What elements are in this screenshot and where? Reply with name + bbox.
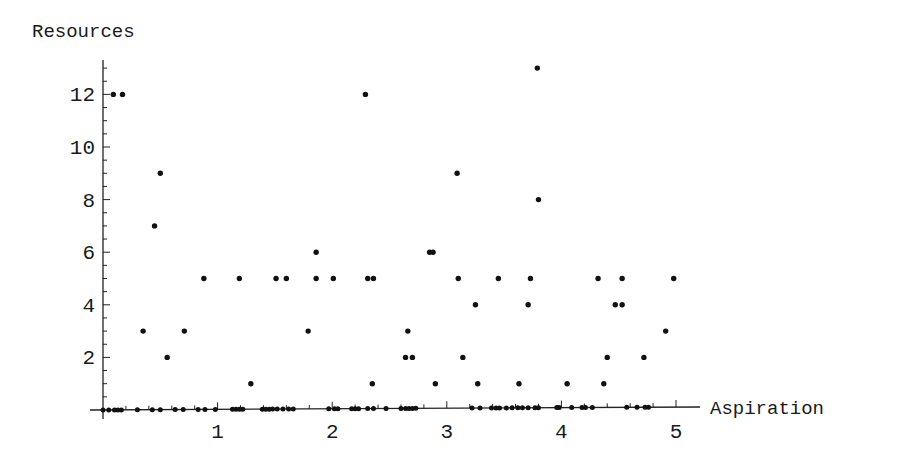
data-point bbox=[182, 328, 187, 333]
data-point-zero bbox=[286, 407, 291, 412]
data-point-zero bbox=[536, 405, 541, 410]
y-tick-label: 2 bbox=[82, 347, 95, 370]
data-point-zero bbox=[213, 407, 218, 412]
data-point-zero bbox=[526, 405, 531, 410]
data-point-zero bbox=[590, 405, 595, 410]
x-axis-label: Aspiration bbox=[710, 398, 824, 420]
data-point bbox=[433, 381, 438, 386]
data-point bbox=[516, 381, 521, 386]
data-point-zero bbox=[280, 407, 285, 412]
data-point-zero bbox=[119, 407, 124, 412]
data-point-zero bbox=[646, 405, 651, 410]
data-points bbox=[101, 65, 677, 412]
data-point-zero bbox=[291, 407, 296, 412]
data-point-zero bbox=[520, 405, 525, 410]
data-point bbox=[605, 355, 610, 360]
data-point-zero bbox=[275, 407, 280, 412]
data-point-zero bbox=[504, 405, 509, 410]
data-point bbox=[536, 197, 541, 202]
y-axis-label: Resources bbox=[32, 21, 135, 43]
data-point bbox=[201, 276, 206, 281]
x-tick-label: 5 bbox=[670, 421, 683, 444]
data-point bbox=[111, 92, 116, 97]
data-point-zero bbox=[101, 408, 106, 413]
data-point bbox=[663, 328, 668, 333]
data-point-zero bbox=[398, 406, 403, 411]
data-point bbox=[460, 355, 465, 360]
data-point-zero bbox=[557, 405, 562, 410]
data-point-zero bbox=[413, 406, 418, 411]
data-point-zero bbox=[510, 405, 515, 410]
x-tick-label: 3 bbox=[440, 421, 453, 444]
data-point bbox=[158, 171, 163, 176]
data-point-zero bbox=[135, 407, 140, 412]
data-point-zero bbox=[356, 406, 361, 411]
data-point bbox=[564, 381, 569, 386]
x-axis-title: Aspiration bbox=[710, 398, 824, 420]
data-point-zero bbox=[624, 405, 629, 410]
tick-marks bbox=[103, 68, 676, 410]
data-point bbox=[313, 276, 318, 281]
data-point bbox=[371, 276, 376, 281]
data-point bbox=[284, 276, 289, 281]
data-point bbox=[528, 276, 533, 281]
data-point-zero bbox=[371, 406, 376, 411]
y-tick-label: 4 bbox=[82, 295, 95, 318]
data-point-zero bbox=[489, 405, 494, 410]
data-point-zero bbox=[106, 407, 111, 412]
data-point bbox=[237, 276, 242, 281]
data-point-zero bbox=[635, 405, 640, 410]
data-point bbox=[405, 328, 410, 333]
data-point-zero bbox=[326, 406, 331, 411]
data-point bbox=[475, 381, 480, 386]
data-point-zero bbox=[202, 407, 207, 412]
data-point bbox=[403, 355, 408, 360]
data-point bbox=[313, 250, 318, 255]
data-point-zero bbox=[515, 405, 520, 410]
data-point bbox=[601, 381, 606, 386]
data-point bbox=[454, 171, 459, 176]
data-point-zero bbox=[196, 407, 201, 412]
data-point-zero bbox=[497, 405, 502, 410]
data-point bbox=[430, 250, 435, 255]
axes bbox=[90, 60, 700, 419]
x-tick-label: 2 bbox=[326, 421, 339, 444]
data-point bbox=[671, 276, 676, 281]
tick-labels: 1234524681012 bbox=[70, 84, 683, 444]
data-point-zero bbox=[365, 406, 370, 411]
data-point bbox=[120, 92, 125, 97]
data-point bbox=[363, 92, 368, 97]
data-point-zero bbox=[478, 406, 483, 411]
data-point bbox=[365, 276, 370, 281]
scatter-chart: Resources Aspiration 1234524681012 bbox=[0, 0, 911, 456]
data-point bbox=[496, 276, 501, 281]
data-point bbox=[410, 355, 415, 360]
data-point-zero bbox=[270, 407, 275, 412]
data-point-zero bbox=[583, 405, 588, 410]
data-point-zero bbox=[569, 405, 574, 410]
y-tick-label: 6 bbox=[82, 242, 95, 265]
data-point bbox=[273, 276, 278, 281]
data-point bbox=[525, 302, 530, 307]
data-point-zero bbox=[173, 407, 178, 412]
data-point-zero bbox=[181, 407, 186, 412]
data-point bbox=[619, 302, 624, 307]
data-point bbox=[248, 381, 253, 386]
data-point bbox=[305, 328, 310, 333]
data-point bbox=[473, 302, 478, 307]
data-point bbox=[613, 302, 618, 307]
data-point bbox=[535, 65, 540, 70]
data-point-zero bbox=[335, 406, 340, 411]
y-tick-label: 8 bbox=[82, 190, 95, 213]
data-point bbox=[595, 276, 600, 281]
data-point bbox=[456, 276, 461, 281]
y-tick-label: 12 bbox=[70, 84, 95, 107]
data-point bbox=[140, 328, 145, 333]
data-point bbox=[370, 381, 375, 386]
data-point-zero bbox=[150, 407, 155, 412]
y-tick-label: 10 bbox=[70, 137, 95, 160]
data-point-zero bbox=[240, 407, 245, 412]
data-point-zero bbox=[384, 406, 389, 411]
x-tick-label: 1 bbox=[211, 421, 224, 444]
data-point bbox=[641, 355, 646, 360]
